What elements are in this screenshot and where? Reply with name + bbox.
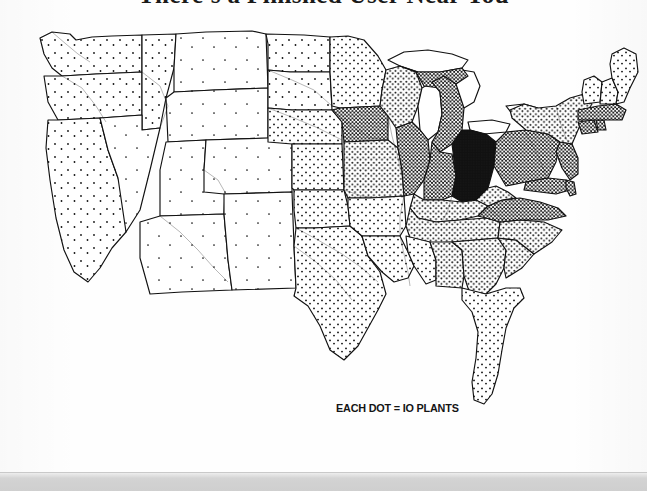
state-delaware bbox=[566, 180, 576, 196]
state-pennsylvania bbox=[494, 130, 560, 186]
scan-edge-band bbox=[0, 472, 647, 491]
state-new-jersey bbox=[556, 142, 578, 180]
state-south-dakota bbox=[268, 70, 332, 110]
scan-edge-highlight bbox=[0, 473, 647, 478]
state-rhode-island bbox=[596, 120, 606, 130]
state-missouri bbox=[344, 140, 404, 198]
state-oregon bbox=[44, 72, 142, 120]
state-north-dakota bbox=[266, 34, 330, 72]
state-oklahoma bbox=[294, 190, 350, 228]
state-vermont bbox=[582, 76, 602, 104]
state-arizona bbox=[140, 214, 232, 294]
map-title: There's a Finished User Near You bbox=[0, 0, 647, 9]
state-colorado bbox=[204, 138, 292, 194]
state-arkansas bbox=[348, 196, 406, 236]
state-nebraska bbox=[268, 108, 342, 144]
state-minnesota bbox=[330, 36, 386, 108]
state-montana bbox=[174, 31, 268, 92]
us-dot-density-map bbox=[0, 10, 647, 440]
state-wyoming bbox=[166, 88, 268, 142]
map-legend: EACH DOT = IO PLANTS bbox=[336, 402, 459, 414]
map-figure: EACH DOT = IO PLANTS bbox=[0, 10, 647, 440]
state-washington bbox=[40, 32, 142, 76]
state-kansas bbox=[292, 144, 344, 190]
state-florida bbox=[462, 288, 524, 404]
state-new-mexico bbox=[224, 192, 296, 290]
state-connecticut bbox=[578, 120, 598, 134]
